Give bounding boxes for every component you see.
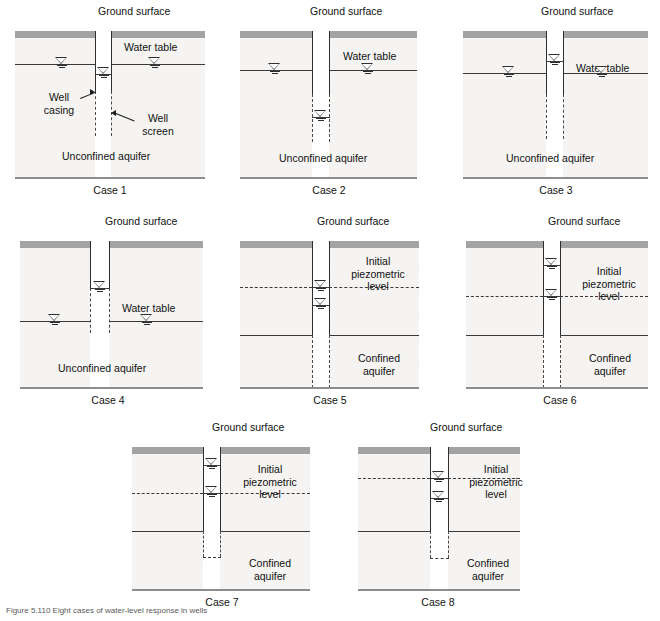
water-level-triangle: [502, 66, 515, 77]
well-screen-left: [203, 531, 204, 557]
topsoil-band-left: [132, 447, 203, 454]
case-7-panel: Ground surface Initialpiezometriclevel C…: [110, 415, 332, 615]
well-casing-left: [203, 447, 204, 531]
well-casing-left: [312, 241, 313, 335]
water-level-triangle: [595, 66, 608, 77]
aquifer-label: Confinedaquifer: [344, 352, 414, 377]
ground-surface-label: Ground surface: [98, 5, 170, 18]
confining-layer-line-right: [560, 335, 648, 336]
case-6-panel: Ground surface Initialpiezometriclevel C…: [438, 210, 660, 410]
case-label: Case 5: [280, 394, 380, 406]
well-screen-right: [448, 531, 449, 558]
well-screen-left: [430, 531, 431, 558]
aquifer-bottom-line: [132, 589, 310, 591]
case-2-panel: Ground surface Water table Unconfined aq…: [222, 0, 436, 200]
water-level-triangle: [314, 110, 327, 121]
aquifer-label: Unconfined aquifer: [279, 152, 367, 165]
aquifer-bottom-line: [20, 387, 203, 389]
topsoil-band-right: [448, 447, 520, 454]
well-casing-left: [312, 31, 313, 94]
well-casing-right: [220, 447, 221, 531]
soil-block-left: [132, 447, 203, 590]
well-screen-left: [312, 335, 313, 388]
water-level-triangle: [314, 298, 327, 309]
water-level-triangle: [140, 314, 153, 325]
well-casing-right: [329, 241, 330, 335]
well-casing-left: [546, 31, 547, 94]
well-screen-left: [543, 335, 544, 388]
confining-layer-line-left: [358, 531, 430, 532]
piezometric-level-label: Initialpiezometriclevel: [230, 463, 310, 501]
piezometric-level-line-left: [132, 493, 203, 494]
aquifer-bottom-line: [358, 589, 520, 591]
piezometric-level-label: Initialpiezometriclevel: [570, 265, 648, 303]
ground-surface-label: Ground surface: [317, 215, 389, 228]
case-label: Case 8: [388, 596, 488, 608]
case-label: Case 2: [279, 184, 379, 196]
topsoil-band-right: [560, 241, 648, 248]
well-casing-right: [329, 31, 330, 94]
water-level-triangle: [148, 57, 161, 68]
piezometric-level-line-left: [466, 296, 543, 297]
case-1-panel: Ground surface Water table Wellcasing We…: [0, 0, 220, 200]
water-table-label: Water table: [124, 41, 177, 54]
aquifer-label: Confinedaquifer: [235, 557, 305, 582]
topsoil-band-left: [15, 31, 95, 38]
well-casing-right: [560, 241, 561, 335]
well-screen-right: [563, 94, 564, 139]
topsoil-band-left: [358, 447, 430, 454]
water-level-triangle: [205, 458, 218, 469]
well-casing-left: [95, 31, 96, 91]
case-label: Case 1: [60, 184, 160, 196]
case-3-panel: Ground surface Water table Unconfined aq…: [438, 0, 660, 200]
piezometric-level-line-left: [358, 478, 430, 479]
well-screen-left: [95, 91, 96, 136]
well-screen-bottom: [203, 557, 221, 558]
aquifer-bottom-line: [463, 177, 648, 179]
ground-surface-label: Ground surface: [541, 5, 613, 18]
confining-layer-line-right: [329, 335, 419, 336]
aquifer-label: Unconfined aquifer: [58, 362, 146, 375]
well-screen-left: [90, 288, 91, 333]
topsoil-band-right: [329, 241, 419, 248]
topsoil-band-left: [240, 31, 312, 38]
aquifer-label: Confinedaquifer: [453, 557, 523, 582]
aquifer-label: Unconfined aquifer: [506, 152, 594, 165]
water-level-triangle: [268, 63, 281, 74]
topsoil-band-right: [563, 31, 648, 38]
water-level-triangle: [93, 281, 106, 292]
piezometric-level-label: Initialpiezometriclevel: [456, 463, 536, 501]
well-screen-left: [312, 94, 313, 142]
aquifer-label: Unconfined aquifer: [62, 150, 150, 163]
well-screen-right: [329, 335, 330, 388]
well-casing-arrow: [90, 89, 95, 95]
well-casing-right: [109, 241, 110, 288]
topsoil-band-left: [20, 241, 90, 248]
topsoil-band-left: [463, 31, 546, 38]
topsoil-band-right: [220, 447, 310, 454]
well-screen-right: [220, 531, 221, 557]
piezometric-level-line-left: [240, 287, 312, 288]
aquifer-bottom-line: [466, 387, 648, 389]
confining-layer-line-right: [220, 531, 310, 532]
case-label: Case 3: [506, 184, 606, 196]
well-screen-arrow: [111, 110, 116, 116]
well-screen-bottom: [430, 558, 449, 559]
confining-layer-line-left: [132, 531, 203, 532]
topsoil-band-left: [240, 241, 312, 248]
ground-surface-label: Ground surface: [548, 215, 620, 228]
well-screen-left: [546, 94, 547, 139]
aquifer-bottom-line: [15, 177, 205, 179]
confining-layer-line-left: [466, 335, 543, 336]
water-level-triangle: [361, 63, 374, 74]
water-level-triangle: [48, 314, 61, 325]
case-5-panel: Ground surface Initialpiezometriclevel C…: [222, 210, 436, 410]
well-screen-right: [560, 335, 561, 388]
water-table-label: Water table: [343, 50, 396, 63]
ground-surface-label: Ground surface: [105, 215, 177, 228]
ground-surface-label: Ground surface: [430, 421, 502, 434]
confining-layer-line-right: [448, 531, 520, 532]
water-table-label: Water table: [122, 302, 175, 315]
water-level-triangle: [97, 67, 110, 78]
water-table-line-right: [109, 321, 203, 322]
